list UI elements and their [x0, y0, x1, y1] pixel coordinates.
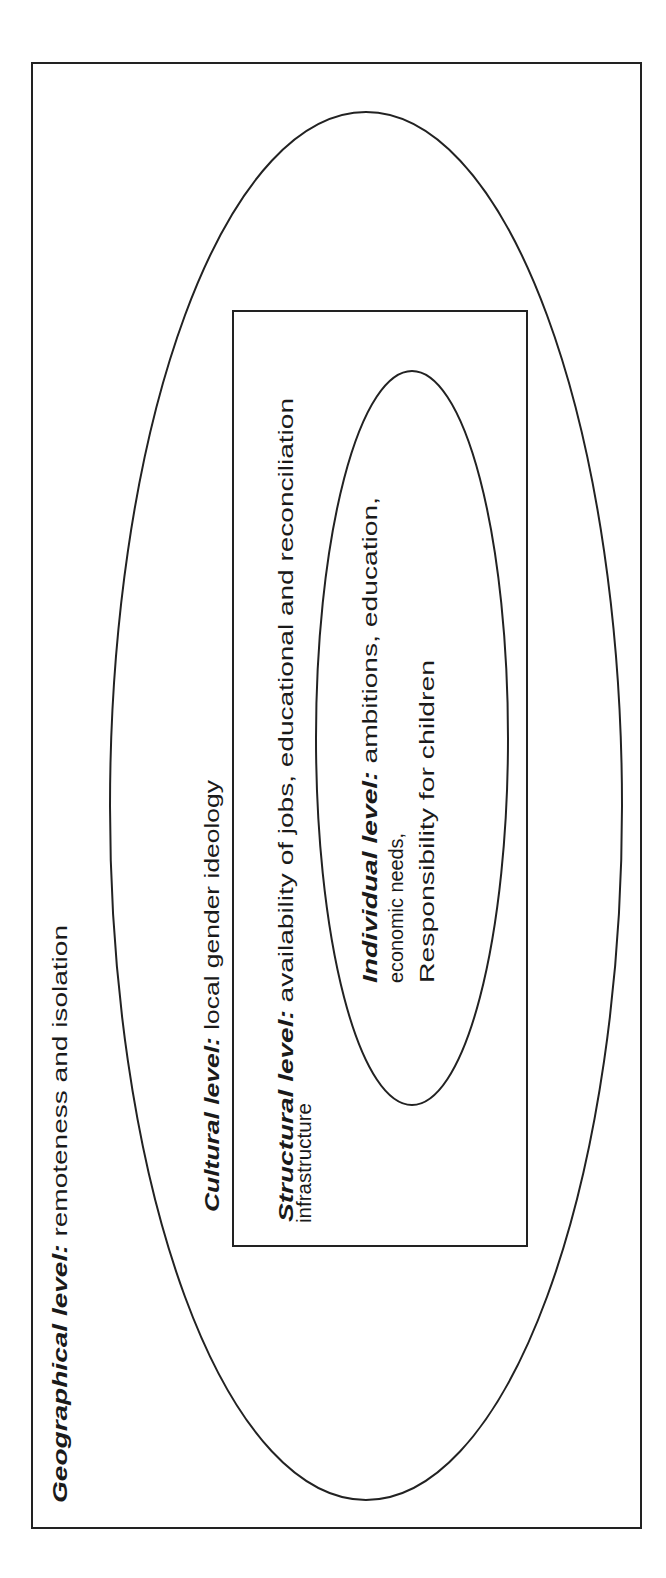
individual-level-text: Individual level: ambitions, education,: [359, 497, 381, 983]
geographical-level-description: remoteness and isolation: [49, 925, 71, 1244]
structural-level-text-line2: infrastructure: [293, 1103, 315, 1223]
individual-level-label: Individual level: [359, 780, 381, 983]
structural-level-text: Structural level: availability of jobs, …: [275, 398, 297, 1222]
label-separator: :: [201, 1037, 223, 1046]
cultural-level-text: Cultural level: local gender ideology: [201, 780, 223, 1212]
nested-levels-diagram: Geographical level: remoteness and isola…: [0, 0, 666, 1578]
geographical-level-box: [32, 63, 641, 1528]
cultural-level-description: local gender ideology: [201, 780, 223, 1037]
geographical-level-text: Geographical level: remoteness and isola…: [49, 925, 71, 1503]
structural-level-description: availability of jobs, educational and re…: [275, 398, 297, 1010]
cultural-level-label: Cultural level: [201, 1045, 223, 1212]
label-separator: :: [275, 1010, 297, 1019]
label-separator: :: [359, 771, 381, 780]
label-separator: :: [49, 1244, 71, 1253]
geographical-level-label: Geographical level: [49, 1253, 71, 1503]
individual-level-ellipse: [316, 371, 508, 1105]
individual-level-description: ambitions, education,: [359, 497, 381, 771]
individual-level-text-line2: economic needs,: [385, 833, 407, 983]
individual-level-text-line3: Responsibility for children: [416, 660, 438, 983]
diagram-canvas: Geographical level: remoteness and isola…: [0, 0, 666, 1578]
